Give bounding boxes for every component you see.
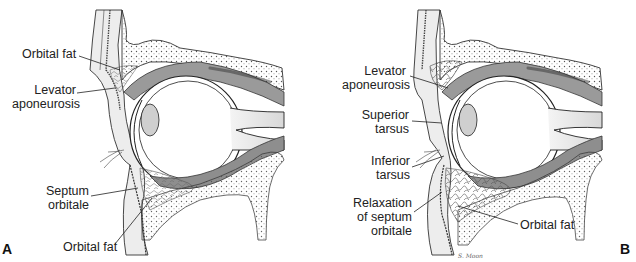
label-line: of septum (352, 210, 412, 224)
label-line: Relaxation (352, 196, 412, 210)
panel-letter-b: B (620, 241, 630, 257)
label-line: orbitale (44, 198, 89, 212)
label-line: orbitale (352, 224, 412, 238)
label-line: tarsus (364, 168, 410, 182)
label-levator-aponeurosis: Levator aponeurosis (342, 64, 406, 92)
label-orbital-fat: Orbital fat (520, 218, 574, 232)
label-text: Orbital fat (520, 218, 574, 232)
label-line: Inferior (364, 154, 410, 168)
label-line: Levator (12, 83, 76, 97)
label-text: Orbital fat (63, 240, 117, 254)
panel-b-aging-eyelid: Levator aponeurosis Superior tarsus Infe… (318, 0, 636, 262)
label-superior-tarsus: Superior tarsus (359, 108, 409, 136)
label-inferior-tarsus: Inferior tarsus (364, 154, 410, 182)
label-orbital-fat-upper: Orbital fat (22, 47, 76, 61)
label-text: Orbital fat (22, 47, 76, 61)
label-line: Superior (359, 108, 409, 122)
label-relaxation-of-septum-orbitale: Relaxation of septum orbitale (352, 196, 412, 238)
label-line: aponeurosis (12, 97, 76, 111)
label-septum-orbitale: Septum orbitale (44, 184, 89, 212)
label-orbital-fat-lower: Orbital fat (63, 240, 117, 254)
panel-a-normal-eyelid: Orbital fat Levator aponeurosis Septum o… (0, 0, 318, 262)
label-line: Levator (342, 64, 406, 78)
label-line: aponeurosis (342, 78, 406, 92)
label-line: Septum (44, 184, 89, 198)
label-line: tarsus (359, 122, 409, 136)
panel-letter-a: A (2, 241, 12, 257)
illustrator-signature: S. Moon (458, 252, 483, 259)
label-levator-aponeurosis: Levator aponeurosis (12, 83, 76, 111)
eye-cross-section-illustration (0, 0, 318, 262)
